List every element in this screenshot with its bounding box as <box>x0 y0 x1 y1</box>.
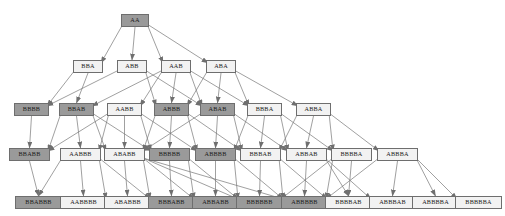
graph-node-label: ABABB <box>113 152 135 158</box>
graph-node-bbbab[interactable]: BBBAB <box>240 148 281 161</box>
graph-node-abbb[interactable]: ABBB <box>154 103 189 116</box>
graph-node-aabb[interactable]: AABB <box>107 103 142 116</box>
graph-node-bbbbba[interactable]: BBBBBA <box>455 196 502 209</box>
graph-node-label: AABBB <box>69 152 91 158</box>
graph-node-label: AABB <box>116 107 134 113</box>
graph-node-label: BBBABB <box>158 200 184 206</box>
graph-node-label: ABBB <box>163 107 181 113</box>
graph-node-label: AAB <box>169 64 183 70</box>
graph-node-bbbabb[interactable]: BBBABB <box>148 196 195 209</box>
graph-node-bba[interactable]: BBA <box>73 60 103 73</box>
graph-node-label: BBBAB <box>250 152 272 158</box>
graph-canvas: AABBAABBAABABABBBBBBABAABBABBBABABBBBAAB… <box>0 0 505 216</box>
graph-node-bbbbb[interactable]: BBBBB <box>149 148 190 161</box>
graph-node-label: ABBAB <box>295 152 317 158</box>
graph-node-bbbba[interactable]: BBBBA <box>331 148 372 161</box>
graph-node-abba[interactable]: ABBA <box>296 103 331 116</box>
graph-node-abbba[interactable]: ABBBA <box>377 148 418 161</box>
graph-node-label: ABBBA <box>386 152 408 158</box>
graph-node-aba[interactable]: ABA <box>206 60 236 73</box>
graph-node-abbab[interactable]: ABBAB <box>286 148 327 161</box>
graph-node-label: BBABB <box>19 152 41 158</box>
graph-node-bbbbab[interactable]: BBBBAB <box>325 196 372 209</box>
graph-node-label: BBBA <box>256 107 274 113</box>
graph-node-label: AABBBB <box>70 200 97 206</box>
node-layer: AABBAABBAABABABBBBBBABAABBABBBABABBBBAAB… <box>0 0 505 216</box>
graph-node-aabbb[interactable]: AABBB <box>60 148 101 161</box>
graph-node-abbabb[interactable]: ABBABB <box>192 196 239 209</box>
graph-node-ababbb[interactable]: ABABBB <box>104 196 151 209</box>
graph-node-bbba[interactable]: BBBA <box>247 103 282 116</box>
graph-node-bbabb[interactable]: BBABB <box>9 148 50 161</box>
graph-node-aab[interactable]: AAB <box>161 60 191 73</box>
graph-node-abbbbb[interactable]: ABBBBB <box>281 196 328 209</box>
graph-node-bbbbbb[interactable]: BBBBBB <box>236 196 283 209</box>
graph-node-label: ABBA <box>305 107 323 113</box>
graph-node-label: ABAB <box>209 107 227 113</box>
graph-node-label: BBA <box>81 64 94 70</box>
graph-node-label: ABB <box>125 64 138 70</box>
graph-node-abbbab[interactable]: ABBBAB <box>369 196 416 209</box>
graph-node-label: BBAB <box>68 107 86 113</box>
graph-node-label: BBBBAB <box>335 200 361 206</box>
graph-node-abab[interactable]: ABAB <box>200 103 235 116</box>
graph-node-label: BBABBB <box>25 200 51 206</box>
graph-node-label: BBBBBB <box>247 200 273 206</box>
graph-node-label: BBBBA <box>341 152 363 158</box>
graph-node-label: ABBBBB <box>291 200 317 206</box>
graph-node-label: BBBBBA <box>465 200 491 206</box>
graph-node-label: BBBB <box>23 107 40 113</box>
graph-node-label: ABABBB <box>114 200 141 206</box>
graph-node-label: ABBBB <box>205 152 227 158</box>
graph-node-bbab[interactable]: BBAB <box>59 103 94 116</box>
graph-node-label: AA <box>130 18 139 24</box>
graph-node-abbbb[interactable]: ABBBB <box>195 148 236 161</box>
graph-node-label: ABBBAB <box>379 200 406 206</box>
graph-node-abbbba[interactable]: ABBBBA <box>412 196 459 209</box>
graph-node-aabbbb[interactable]: AABBBB <box>60 196 107 209</box>
graph-node-bbabbb[interactable]: BBABBB <box>15 196 62 209</box>
graph-node-aa[interactable]: AA <box>121 14 149 27</box>
graph-node-ababb[interactable]: ABABB <box>104 148 145 161</box>
graph-node-bbbb[interactable]: BBBB <box>14 103 49 116</box>
graph-node-abb[interactable]: ABB <box>117 60 147 73</box>
graph-node-label: ABA <box>214 64 228 70</box>
graph-node-label: ABBBBA <box>422 200 449 206</box>
graph-node-label: BBBBB <box>159 152 181 158</box>
graph-node-label: ABBABB <box>202 200 229 206</box>
